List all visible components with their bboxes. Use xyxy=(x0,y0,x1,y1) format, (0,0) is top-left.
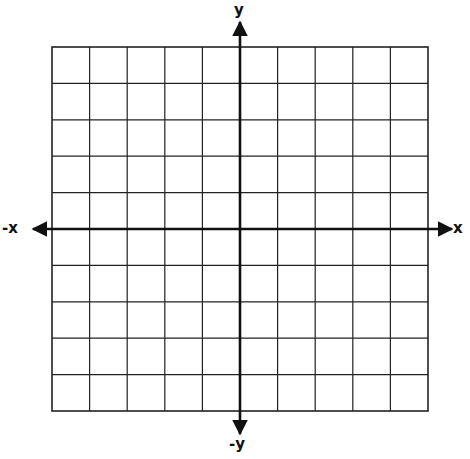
coordinate-plane xyxy=(0,0,470,459)
negative-y-axis-label: -y xyxy=(229,437,245,452)
negative-x-axis-label: -x xyxy=(2,221,18,236)
positive-y-axis-label: y xyxy=(234,3,244,18)
positive-x-axis-label: x xyxy=(453,221,463,236)
